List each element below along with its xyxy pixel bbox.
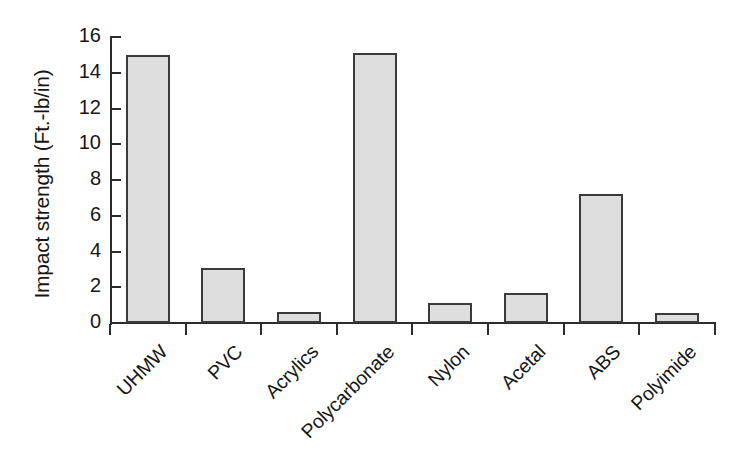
bar	[428, 303, 472, 323]
x-axis-tick	[487, 324, 489, 335]
bar	[353, 53, 397, 323]
y-axis-tick-label: 6	[61, 203, 101, 226]
x-axis-tick	[185, 324, 187, 335]
bar	[277, 312, 321, 323]
y-axis-tick	[112, 179, 121, 181]
bar	[655, 313, 699, 323]
y-axis-tick-label: 16	[61, 24, 101, 47]
y-axis-tick	[112, 36, 121, 38]
y-axis-tick	[112, 251, 121, 253]
y-axis-tick-label: 10	[61, 131, 101, 154]
y-axis-tick-label: 4	[61, 239, 101, 262]
y-axis-tick-label: 14	[61, 60, 101, 83]
x-axis-tick	[563, 324, 565, 335]
bar	[579, 194, 623, 323]
x-axis-tick	[714, 324, 716, 335]
x-axis-tick	[336, 324, 338, 335]
y-axis-tick	[112, 72, 121, 74]
x-axis-tick	[638, 324, 640, 335]
bar	[201, 268, 245, 323]
y-axis-tick-label: 8	[61, 167, 101, 190]
y-axis-tick-label: 12	[61, 96, 101, 119]
x-axis-tick	[109, 324, 111, 335]
bar	[504, 293, 548, 323]
x-axis-tick	[411, 324, 413, 335]
y-axis-tick	[112, 108, 121, 110]
y-axis-tick	[112, 215, 121, 217]
y-axis-tick	[112, 143, 121, 145]
y-axis-tick	[112, 322, 121, 324]
y-axis-title: Impact strength (Ft.-lb/in)	[30, 34, 54, 334]
bar	[126, 55, 170, 323]
impact-strength-bar-chart: Impact strength (Ft.-lb/in) 024681012141…	[0, 0, 754, 458]
y-axis-tick-label: 2	[61, 274, 101, 297]
y-axis-tick-label: 0	[61, 310, 101, 333]
x-axis-tick	[260, 324, 262, 335]
y-axis-tick	[112, 286, 121, 288]
